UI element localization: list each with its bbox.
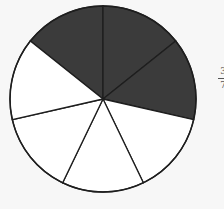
fraction-denominator: 7 bbox=[220, 80, 224, 90]
fraction-numerator: 3 bbox=[220, 66, 224, 76]
fraction-bar bbox=[218, 78, 224, 79]
fraction-label: 3 7 bbox=[218, 66, 224, 91]
fraction-circle bbox=[0, 0, 224, 209]
